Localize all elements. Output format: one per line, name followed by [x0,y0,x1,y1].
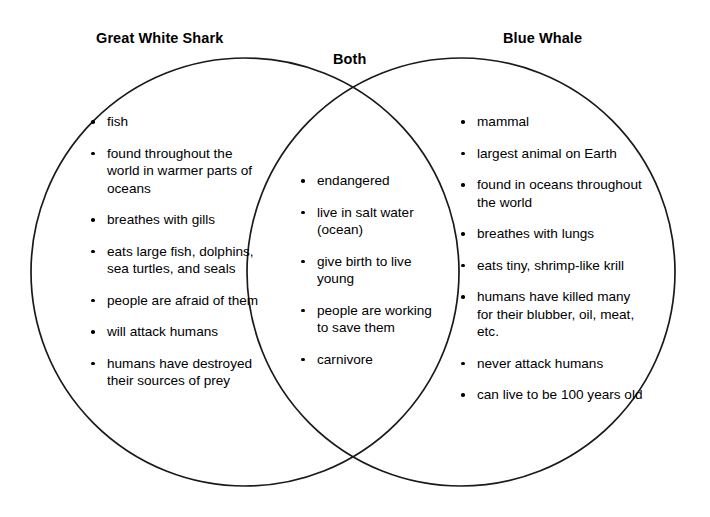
list-item: people are afraid of them [88,292,264,310]
list-item: people are working to save them [298,302,432,337]
list-item: eats large fish, dolphins, sea turtles, … [88,243,264,278]
right-circle-title: Blue Whale [503,31,582,46]
list-item: humans have destroyed their sources of p… [88,355,264,390]
list-item: carnivore [298,351,432,369]
list-item: breathes with gills [88,211,264,229]
right-circle-list: mammallargest animal on Earthfound in oc… [458,113,644,418]
list-item: mammal [458,113,644,131]
list-item: fish [88,113,264,131]
list-item: largest animal on Earth [458,145,644,163]
list-item: give birth to live young [298,253,432,288]
list-item: humans have killed many for their blubbe… [458,288,644,341]
left-circle-title: Great White Shark [96,31,223,46]
venn-diagram: Great White Shark Both Blue Whale fishfo… [0,0,710,517]
list-item: eats tiny, shrimp-like krill [458,257,644,275]
list-item: will attack humans [88,323,264,341]
left-circle-list: fishfound throughout the world in warmer… [88,113,264,404]
list-item: never attack humans [458,355,644,373]
list-item: live in salt water (ocean) [298,204,432,239]
list-item: found throughout the world in warmer par… [88,145,264,198]
list-item: endangered [298,172,432,190]
intersection-list: endangeredlive in salt water (ocean)give… [298,172,432,382]
list-item: found in oceans throughout the world [458,176,644,211]
list-item: can live to be 100 years old [458,386,644,404]
list-item: breathes with lungs [458,225,644,243]
intersection-title: Both [333,52,366,67]
